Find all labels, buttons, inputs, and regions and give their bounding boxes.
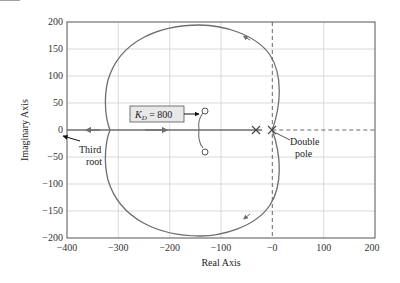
svg-text:150: 150: [48, 43, 63, 54]
zero-upper: [202, 108, 208, 114]
svg-text:50: 50: [53, 97, 63, 108]
svg-text:−300: −300: [108, 242, 129, 253]
svg-text:0: 0: [58, 124, 63, 135]
zero-lower: [202, 149, 208, 155]
root-locus-chart: KD = 800 Third root Double pole 200 150 …: [0, 0, 400, 283]
x-axis-label: Real Axis: [201, 257, 240, 268]
svg-text:Third: Third: [79, 144, 101, 155]
svg-text:−0: −0: [267, 242, 278, 253]
third-root-annotation: Third root: [63, 136, 102, 167]
svg-text:−100: −100: [42, 178, 63, 189]
svg-text:−200: −200: [159, 242, 180, 253]
svg-text:−50: −50: [47, 151, 63, 162]
svg-text:−400: −400: [57, 242, 78, 253]
svg-text:root: root: [86, 156, 102, 167]
svg-text:pole: pole: [295, 148, 313, 159]
svg-text:100: 100: [48, 70, 63, 81]
svg-text:200: 200: [48, 16, 63, 27]
y-axis-label: Imaginary Axis: [19, 99, 30, 161]
svg-text:Double: Double: [290, 136, 320, 147]
x-tick-labels: −400 −300 −200 −100 −0 100 200: [57, 242, 380, 253]
svg-text:100: 100: [316, 242, 331, 253]
kd-annotation: KD = 800: [130, 106, 199, 122]
double-pole-annotation: Double pole: [276, 133, 320, 159]
y-tick-labels: 200 150 100 50 0 −50 −100 −150 −200: [42, 16, 63, 243]
svg-text:−150: −150: [42, 205, 63, 216]
svg-text:200: 200: [365, 242, 380, 253]
svg-text:−100: −100: [211, 242, 232, 253]
